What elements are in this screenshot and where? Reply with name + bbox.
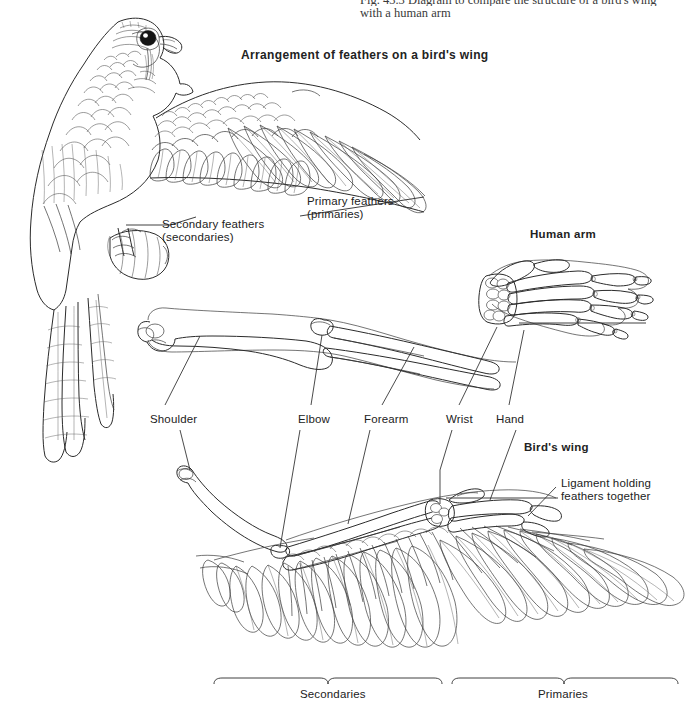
forearm-leader-wing	[348, 430, 370, 524]
label-secondaries: Secondaries	[300, 688, 366, 701]
heading-feather-arrangement: Arrangement of feathers on a bird's wing	[241, 49, 489, 62]
heading-human-arm: Human arm	[530, 228, 596, 241]
hand-leader-wing	[490, 430, 516, 500]
label-wrist: Wrist	[446, 413, 473, 426]
label-shoulder: Shoulder	[150, 413, 197, 426]
label-elbow: Elbow	[298, 413, 330, 426]
shoulder-leader-wing	[180, 430, 190, 470]
wrist-leader	[459, 327, 497, 405]
forearm-leader	[382, 347, 414, 405]
annotation-layer	[0, 0, 697, 706]
label-hand: Hand	[496, 413, 524, 426]
hand-leader	[509, 330, 524, 405]
label-secondary-feathers: Secondary feathers (secondaries)	[162, 218, 264, 244]
figure-root: Fig. 43.3 Diagram to compare the structu…	[0, 0, 697, 706]
primaries-bracket	[452, 678, 678, 684]
label-primaries: Primaries	[538, 688, 588, 701]
elbow-leader-wing	[280, 430, 300, 548]
secondaries-bracket	[214, 678, 442, 684]
ligament-leader	[528, 487, 556, 516]
shoulder-leader	[165, 336, 200, 405]
wrist-leader-wing	[440, 430, 452, 504]
label-forearm: Forearm	[364, 413, 409, 426]
label-ligament: Ligament holding feathers together	[561, 477, 651, 503]
elbow-leader	[311, 335, 322, 405]
heading-birds-wing: Bird's wing	[524, 441, 589, 454]
label-primary-feathers: Primary feathers (primaries)	[307, 195, 394, 221]
